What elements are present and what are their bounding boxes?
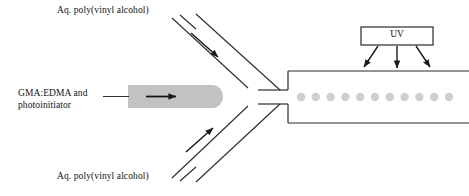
droplet (386, 93, 394, 101)
bottom-inlet-flow-arrow (186, 128, 213, 152)
top-inlet-channel (172, 14, 280, 90)
label-aqueous-pva-bottom: Aq. poly(vinyl alcohol) (57, 171, 149, 183)
droplet (371, 93, 379, 101)
pva-bottom-leader-line (180, 167, 196, 181)
droplet (415, 93, 423, 101)
label-dispersed-phase-line1: GMA:EDMA and (18, 88, 88, 100)
bottom-inlet-channel (172, 104, 280, 182)
uv-arrow-right (416, 46, 430, 67)
droplet (356, 93, 364, 101)
droplet (297, 93, 305, 101)
droplet-train (297, 93, 453, 101)
droplet (312, 93, 320, 101)
uv-arrow-left (364, 46, 378, 67)
droplet (430, 93, 438, 101)
label-aqueous-pva-top: Aq. poly(vinyl alcohol) (57, 5, 149, 17)
uv-arrows (364, 46, 430, 68)
droplet (341, 93, 349, 101)
label-uv-source: UV (361, 29, 433, 39)
droplet (326, 93, 334, 101)
label-dispersed-phase-line2: photoinitiator (18, 100, 88, 112)
droplet (400, 93, 408, 101)
microfluidic-schematic-figure: Aq. poly(vinyl alcohol) Aq. poly(vinyl a… (0, 0, 469, 196)
top-inlet-flow-arrow (191, 33, 218, 57)
label-dispersed-phase: GMA:EDMA and photoinitiator (18, 88, 88, 111)
droplet (445, 93, 453, 101)
